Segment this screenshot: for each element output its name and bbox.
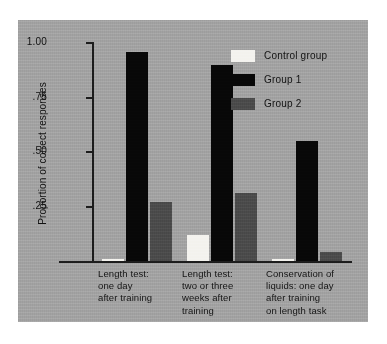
category-label-line: after training [98, 292, 152, 304]
legend-swatch-icon [231, 74, 255, 86]
bar [296, 141, 318, 261]
category-label-line: two or three [182, 280, 233, 292]
y-axis-tick-label: .50 [32, 145, 47, 156]
bar [187, 235, 209, 261]
legend-item: Control group [231, 46, 366, 65]
bar [272, 259, 294, 261]
y-axis-tick-mark [86, 97, 94, 99]
category-label-line: on length task [266, 305, 334, 317]
y-axis-tick-mark [86, 151, 94, 153]
category-label-line: Conservation of [266, 268, 334, 280]
category-label-line: training [182, 305, 233, 317]
bar [235, 193, 257, 261]
bar [150, 202, 172, 261]
bar [211, 65, 233, 261]
category-label-line: weeks after [182, 292, 233, 304]
x-axis-category-label: Length test:two or threeweeks aftertrain… [182, 268, 233, 317]
plot-area: Proportion of correct responses 1.00.75.… [18, 20, 368, 322]
chart-legend: Control groupGroup 1Group 2 [231, 46, 366, 118]
category-label-line: liquids: one day [266, 280, 334, 292]
y-axis-tick-mark [86, 206, 94, 208]
y-axis-tick-label: 1.00 [27, 36, 47, 47]
legend-item: Group 1 [231, 70, 366, 89]
category-label-line: after training [266, 292, 334, 304]
category-label-line: Length test: [182, 268, 233, 280]
y-axis-tick-label: .25 [32, 200, 47, 211]
legend-swatch-icon [231, 98, 255, 110]
x-axis-category-label: Conservation ofliquids: one dayafter tra… [266, 268, 334, 317]
category-label-line: one day [98, 280, 152, 292]
bar [102, 259, 124, 261]
y-axis-tick-label: .75 [32, 91, 47, 102]
x-axis-line [59, 261, 352, 263]
y-axis-tick-mark [86, 42, 94, 44]
legend-label: Group 1 [264, 74, 302, 85]
chart-panel: Proportion of correct responses 1.00.75.… [18, 20, 368, 322]
bar [126, 52, 148, 261]
x-axis-category-label: Length test:one dayafter training [98, 268, 152, 305]
category-label-line: Length test: [98, 268, 152, 280]
bar [320, 252, 342, 261]
legend-label: Group 2 [264, 98, 302, 109]
legend-item: Group 2 [231, 94, 366, 113]
legend-label: Control group [264, 50, 327, 61]
legend-swatch-icon [231, 50, 255, 62]
bar-group [94, 43, 179, 261]
